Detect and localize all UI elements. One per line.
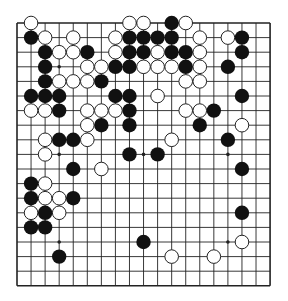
black-stone bbox=[179, 45, 193, 59]
white-stone bbox=[123, 16, 137, 30]
white-stone bbox=[165, 250, 179, 264]
white-stone bbox=[193, 60, 207, 74]
white-stone bbox=[179, 16, 193, 30]
black-stone bbox=[122, 60, 136, 74]
black-stone bbox=[24, 220, 38, 234]
white-stone bbox=[235, 118, 249, 132]
white-stone bbox=[38, 31, 52, 45]
black-stone bbox=[122, 45, 136, 59]
black-stone bbox=[207, 103, 221, 117]
white-stone bbox=[193, 104, 207, 118]
white-stone bbox=[137, 16, 151, 30]
go-board[interactable] bbox=[0, 0, 288, 301]
star-point bbox=[142, 153, 146, 157]
white-stone bbox=[179, 104, 193, 118]
white-stone bbox=[81, 133, 95, 147]
star-point bbox=[57, 65, 61, 69]
white-stone bbox=[52, 206, 66, 220]
black-stone bbox=[38, 89, 52, 103]
white-stone bbox=[193, 75, 207, 89]
black-stone bbox=[66, 133, 80, 147]
black-stone bbox=[66, 162, 80, 176]
black-stone bbox=[150, 30, 164, 44]
white-stone bbox=[151, 89, 165, 103]
black-stone bbox=[24, 176, 38, 190]
black-stone bbox=[235, 206, 249, 220]
black-stone bbox=[122, 103, 136, 117]
black-stone bbox=[122, 30, 136, 44]
white-stone bbox=[165, 133, 179, 147]
black-stone bbox=[122, 147, 136, 161]
star-point bbox=[57, 240, 61, 244]
black-stone bbox=[235, 89, 249, 103]
black-stone bbox=[38, 74, 52, 88]
white-stone bbox=[81, 75, 95, 89]
white-stone bbox=[52, 191, 66, 205]
black-stone bbox=[108, 60, 122, 74]
white-stone bbox=[38, 191, 52, 205]
white-stone bbox=[165, 60, 179, 74]
black-stone bbox=[136, 235, 150, 249]
black-stone bbox=[24, 191, 38, 205]
white-stone bbox=[81, 118, 95, 132]
black-stone bbox=[38, 45, 52, 59]
white-stone bbox=[95, 104, 109, 118]
white-stone bbox=[81, 104, 95, 118]
white-stone bbox=[66, 31, 80, 45]
white-stone bbox=[81, 60, 95, 74]
black-stone bbox=[38, 206, 52, 220]
black-stone bbox=[52, 89, 66, 103]
white-stone bbox=[235, 235, 249, 249]
black-stone bbox=[164, 45, 178, 59]
black-stone bbox=[193, 118, 207, 132]
white-stone bbox=[38, 104, 52, 118]
white-stone bbox=[193, 31, 207, 45]
star-point bbox=[57, 153, 61, 157]
black-stone bbox=[24, 30, 38, 44]
black-stone bbox=[66, 191, 80, 205]
black-stone bbox=[136, 45, 150, 59]
white-stone bbox=[66, 75, 80, 89]
white-stone bbox=[52, 45, 66, 59]
white-stone bbox=[95, 162, 109, 176]
black-stone bbox=[38, 60, 52, 74]
white-stone bbox=[24, 16, 38, 30]
black-stone bbox=[94, 74, 108, 88]
white-stone bbox=[95, 60, 109, 74]
black-stone bbox=[164, 30, 178, 44]
white-stone bbox=[109, 104, 123, 118]
black-stone bbox=[52, 133, 66, 147]
white-stone bbox=[109, 31, 123, 45]
white-stone bbox=[38, 133, 52, 147]
white-stone bbox=[151, 45, 165, 59]
white-stone bbox=[179, 75, 193, 89]
black-stone bbox=[122, 118, 136, 132]
white-stone bbox=[38, 148, 52, 162]
black-stone bbox=[108, 89, 122, 103]
black-stone bbox=[164, 16, 178, 30]
black-stone bbox=[24, 89, 38, 103]
white-stone bbox=[38, 177, 52, 191]
white-stone bbox=[52, 75, 66, 89]
black-stone bbox=[221, 60, 235, 74]
white-stone bbox=[137, 60, 151, 74]
black-stone bbox=[52, 103, 66, 117]
black-stone bbox=[221, 133, 235, 147]
white-stone bbox=[221, 31, 235, 45]
black-stone bbox=[122, 89, 136, 103]
black-stone bbox=[235, 30, 249, 44]
black-stone bbox=[94, 118, 108, 132]
star-point bbox=[226, 240, 230, 244]
white-stone bbox=[24, 206, 38, 220]
black-stone bbox=[80, 45, 94, 59]
white-stone bbox=[193, 45, 207, 59]
white-stone bbox=[207, 250, 221, 264]
white-stone bbox=[151, 60, 165, 74]
black-stone bbox=[179, 60, 193, 74]
white-stone bbox=[24, 104, 38, 118]
white-stone bbox=[109, 45, 123, 59]
white-stone bbox=[66, 45, 80, 59]
black-stone bbox=[235, 162, 249, 176]
black-stone bbox=[235, 45, 249, 59]
black-stone bbox=[150, 147, 164, 161]
